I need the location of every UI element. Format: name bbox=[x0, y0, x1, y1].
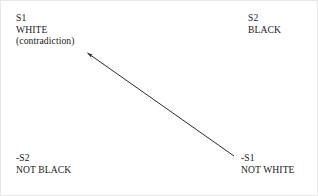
node-s1-value: WHITE bbox=[16, 24, 75, 36]
node-not-s2: -S2 NOT BLACK bbox=[16, 152, 71, 175]
node-s2-symbol: S2 bbox=[248, 12, 281, 24]
arrow-not-s1-to-s1 bbox=[88, 53, 235, 156]
node-s2-value: BLACK bbox=[248, 24, 281, 36]
node-not-s1-symbol: -S1 bbox=[241, 152, 295, 164]
node-not-s2-symbol: -S2 bbox=[16, 152, 71, 164]
node-s1-symbol: S1 bbox=[16, 12, 75, 24]
node-s1: S1 WHITE (contradiction) bbox=[16, 12, 75, 47]
node-s2: S2 BLACK bbox=[248, 12, 281, 35]
node-not-s2-value: NOT BLACK bbox=[16, 164, 71, 176]
node-not-s1-value: NOT WHITE bbox=[241, 164, 295, 176]
node-not-s1: -S1 NOT WHITE bbox=[241, 152, 295, 175]
node-s1-note: (contradiction) bbox=[16, 35, 75, 47]
diagram-canvas: S1 WHITE (contradiction) S2 BLACK -S2 NO… bbox=[0, 0, 318, 196]
